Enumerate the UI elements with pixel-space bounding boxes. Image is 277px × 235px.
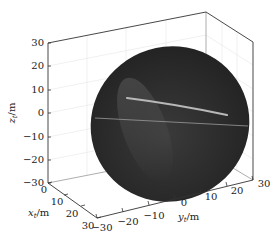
x-tick-label: 20 — [66, 208, 79, 219]
z-tick-label: −10 — [23, 131, 44, 142]
y-tick-label: −10 — [143, 210, 164, 221]
disk-surface — [63, 18, 277, 229]
x-axis-label: xt/m — [28, 207, 50, 220]
y-tick-label: 30 — [258, 178, 271, 189]
z-axis-label: zt/m — [6, 102, 19, 124]
z-tick-label: −20 — [23, 154, 44, 165]
y-tick-label: −30 — [91, 222, 112, 233]
x-tick-label: 0 — [41, 184, 47, 195]
x-axis: 0 10 20 30 xt/m — [28, 182, 101, 231]
z-tick-label: 10 — [31, 84, 44, 95]
y-tick-label: 20 — [231, 185, 244, 196]
z-tick-label: 20 — [31, 60, 44, 71]
y-tick-label: 10 — [205, 191, 218, 202]
y-tick-label: −20 — [117, 216, 138, 227]
z-tick-label: 0 — [38, 107, 44, 118]
y-tick-label: 0 — [181, 197, 187, 208]
3d-plot: 30 20 10 0 −10 −20 −30 zt/m 0 10 20 30 x… — [0, 0, 277, 235]
y-axis-label: yt/m — [177, 211, 200, 224]
z-tick-label: 30 — [31, 37, 44, 48]
z-axis: 30 20 10 0 −10 −20 −30 zt/m — [6, 37, 51, 188]
x-tick-label: 10 — [51, 196, 64, 207]
